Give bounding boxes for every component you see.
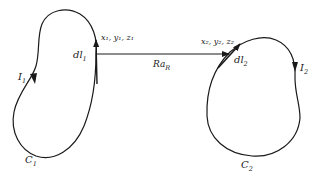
label-i2: I2 [299,62,308,76]
current-arrow-i2-icon [292,62,298,72]
current-arrow-i1-icon [30,73,37,84]
label-dl2: dl2 [234,54,248,68]
label-coords-2: x₂, y₂, z₂ [201,37,234,46]
diagram-canvas: I1 dl1 x₁, y₁, z₁ C1 RaR x₂, y₂, z₂ dl2 … [0,0,315,177]
label-dl1: dl1 [73,49,87,63]
element-dl1 [96,40,97,84]
label-coords-1: x₁, y₁, z₁ [101,33,134,42]
label-i1: I1 [17,71,26,85]
label-r-a-r: RaR [152,59,170,72]
label-c2: C2 [241,159,253,173]
loop-c2 [207,38,300,157]
